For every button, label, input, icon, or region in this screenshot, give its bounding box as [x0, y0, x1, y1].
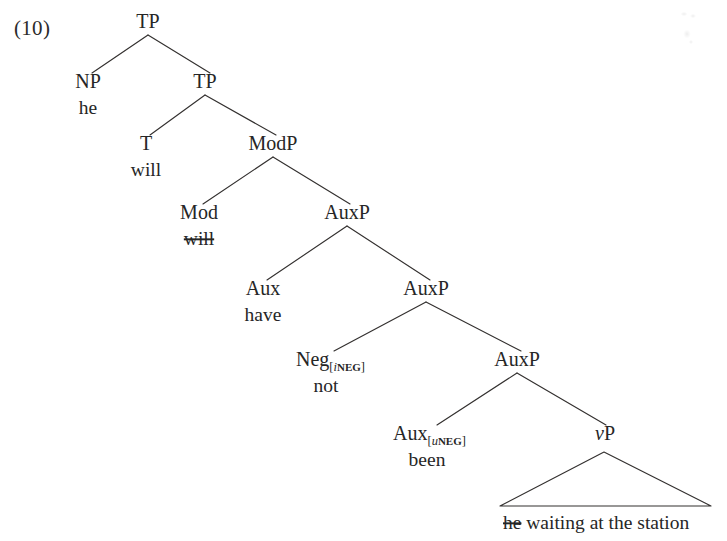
node-auxp1: AuxP [324, 201, 370, 223]
vp-triangle [500, 452, 711, 506]
node-t-word: will [131, 159, 162, 180]
node-vp: vP [595, 422, 615, 444]
branch-auxp2-to-neg [334, 302, 426, 351]
node-auxp3: AuxP [494, 348, 540, 370]
node-vp-label-italic: v [595, 422, 604, 444]
branch-modp-to-auxp1 [273, 157, 350, 204]
node-auxp2: AuxP [403, 277, 449, 299]
node-vp-label-roman: P [604, 422, 615, 444]
branch-tp-root-to-tp2 [148, 35, 210, 73]
node-neg-feature-name: NEG [337, 361, 361, 373]
node-mod-word: will [184, 228, 215, 249]
branch-tp-root-to-np [92, 35, 148, 73]
page-canvas: (10) TP NP he [0, 0, 727, 541]
branch-auxp1-to-aux1 [267, 226, 347, 280]
branch-auxp1-to-auxp2 [347, 226, 430, 280]
node-aux2-label: Aux [393, 422, 427, 444]
node-aux2-feature-name: NEG [438, 435, 462, 447]
node-neg-label: Neg [296, 348, 329, 371]
branch-tp2-to-modp [205, 95, 276, 135]
node-aux1: Aux [246, 277, 280, 299]
node-tp2: TP [193, 70, 216, 92]
node-neg: Neg[iNEG] [296, 348, 365, 374]
vp-triangle-text-rest: waiting at the station [521, 512, 689, 533]
node-modp: ModP [249, 132, 298, 154]
node-t: T [140, 132, 152, 154]
node-tp-root: TP [136, 10, 159, 32]
node-np-word: he [79, 97, 97, 118]
node-aux1-word: have [245, 304, 282, 325]
branch-auxp3-to-vp [517, 373, 606, 425]
vp-triangle-text: he waiting at the station [503, 512, 690, 533]
syntax-tree-diagram: TP NP he TP T will ModP Mod will AuxP Au… [0, 0, 727, 541]
node-np: NP [75, 70, 101, 92]
node-aux2: Aux[uNEG] [393, 422, 466, 448]
node-aux2-word: been [409, 449, 446, 470]
branch-tp2-to-t [150, 95, 205, 135]
branch-auxp3-to-aux2 [437, 373, 517, 425]
branch-auxp2-to-auxp3 [426, 302, 521, 351]
node-neg-subscript-close: ] [361, 360, 365, 374]
node-neg-word: not [314, 375, 340, 396]
node-aux2-subscript-close: ] [462, 434, 466, 448]
vp-triangle-text-struck: he [503, 512, 521, 533]
branch-modp-to-mod [203, 157, 273, 204]
node-mod: Mod [180, 201, 218, 223]
